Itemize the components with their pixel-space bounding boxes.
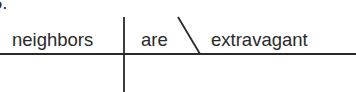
subject-word: neighbors	[12, 31, 93, 50]
predicate-adjective-slant	[178, 17, 200, 54]
verb-word: are	[141, 31, 168, 50]
predicate-adjective-word: extravagant	[211, 31, 308, 50]
